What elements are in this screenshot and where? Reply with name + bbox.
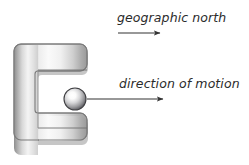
direction-of-motion-label: direction of motion xyxy=(119,76,240,91)
geographic-north-label: geographic north xyxy=(117,10,226,25)
metal-sphere xyxy=(64,88,86,110)
magnet-upper-pole xyxy=(39,45,86,70)
magnet-lower-pole xyxy=(39,116,86,141)
physics-diagram-figure: geographic north direction of motion xyxy=(0,0,249,165)
